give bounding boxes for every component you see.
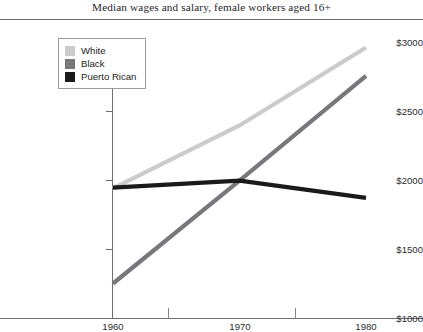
legend-swatch-white-icon [65,46,75,56]
chart-figure: Median wages and salary, female workers … [0,0,423,332]
series-line-white [113,48,366,189]
legend-swatch-black-icon [65,59,75,69]
legend-item-black: Black [65,57,136,70]
legend-label-black: Black [81,59,104,69]
legend-label-puerto-rican: Puerto Rican [81,72,136,82]
legend-label-white: White [81,46,106,56]
legend-swatch-puerto-rican-icon [65,72,75,82]
legend-item-puerto-rican: Puerto Rican [65,70,136,83]
chart-legend: White Black Puerto Rican [58,38,146,89]
legend-item-white: White [65,44,136,57]
